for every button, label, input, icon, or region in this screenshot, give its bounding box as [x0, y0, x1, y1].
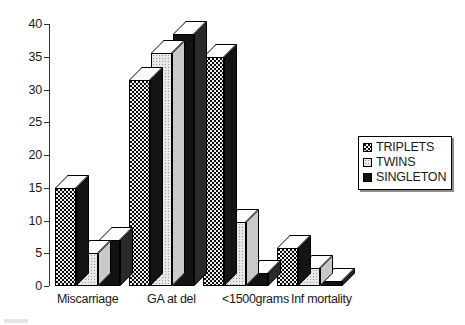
legend-item-label: SINGLETON — [376, 171, 446, 184]
legend-item: SINGLETON — [363, 170, 446, 185]
y-tick-label: 30 — [12, 84, 42, 96]
y-tick-mark — [44, 24, 49, 25]
y-tick-label: 25 — [12, 116, 42, 128]
solid-black-swatch-icon — [363, 173, 372, 182]
y-tick-mark — [44, 155, 49, 156]
y-tick-mark — [44, 122, 49, 123]
y-tick-mark — [44, 57, 49, 58]
y-tick-label: 20 — [12, 149, 42, 161]
chart-legend: TRIPLETS TWINS SINGLETON — [358, 136, 452, 190]
legend-item-label: TRIPLETS — [376, 141, 434, 154]
y-tick-label: 35 — [12, 51, 42, 63]
x-axis-label-1: Miscarriage — [57, 292, 118, 306]
y-tick-label: 40 — [12, 18, 42, 30]
y-tick-mark — [44, 286, 49, 287]
legend-item-label: TWINS — [376, 156, 415, 169]
x-axis-label-4: Inf mortality — [291, 292, 352, 306]
x-axis-label-3: <1500grams — [222, 292, 289, 306]
legend-item: TRIPLETS — [363, 140, 446, 155]
y-tick-label: 5 — [12, 247, 42, 259]
y-tick-label: 10 — [12, 215, 42, 227]
bar-side-face — [76, 175, 89, 286]
bar-side-face — [172, 40, 185, 286]
scan-artifact — [4, 319, 28, 323]
bar-side-face — [150, 67, 163, 286]
y-tick-label: 15 — [12, 182, 42, 194]
y-tick-mark — [44, 188, 49, 189]
legend-item: TWINS — [363, 155, 446, 170]
y-tick-mark — [44, 253, 49, 254]
y-tick-mark — [44, 221, 49, 222]
bar-triplets-1 — [55, 188, 76, 286]
bar-chart: 0510152025303540 MiscarriageGA at del<15… — [0, 0, 465, 325]
checkered-dark-swatch-icon — [363, 143, 372, 152]
plot-area — [50, 10, 350, 286]
bar-side-face — [194, 21, 207, 286]
bar-front-face — [55, 188, 76, 286]
bar-side-face — [224, 44, 237, 286]
dotted-light-swatch-icon — [363, 158, 372, 167]
y-tick-mark — [44, 90, 49, 91]
y-tick-label: 0 — [12, 280, 42, 292]
x-axis-label-2: GA at del — [147, 292, 196, 306]
